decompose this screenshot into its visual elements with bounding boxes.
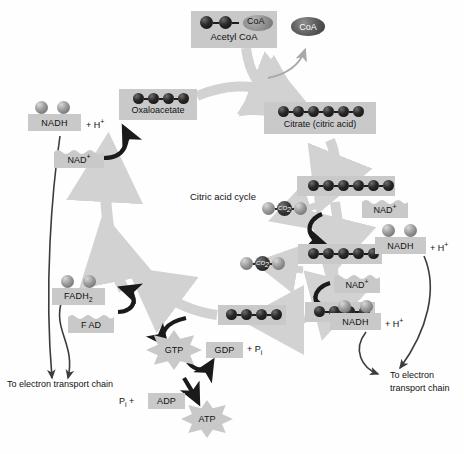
electron-sphere xyxy=(404,224,417,237)
etc-left-annotation: To electron transport chain xyxy=(7,379,113,390)
electron-sphere xyxy=(338,300,351,313)
carbon-sphere xyxy=(323,106,334,117)
nad-right-upper-label: NAD+ xyxy=(362,203,408,215)
nadh-right-upper-proton: + H+ xyxy=(430,239,448,254)
nadh-right-lower-box: NADH xyxy=(330,313,381,330)
carbon-sphere xyxy=(353,180,364,191)
carbon-sphere xyxy=(308,180,319,191)
carbon-sphere xyxy=(353,106,364,117)
carbon-sphere xyxy=(308,106,319,117)
pi-adp-text: Pi + xyxy=(119,396,134,410)
carbon-sphere xyxy=(226,309,237,320)
cycle-center-label: Citric acid cycle xyxy=(190,191,256,202)
six-carbon-chain xyxy=(308,180,394,191)
carbon-sphere xyxy=(241,309,252,320)
five-carbon-chain xyxy=(308,248,379,259)
carbon-sphere xyxy=(314,306,325,317)
coa-released-node: CoA xyxy=(291,17,325,36)
nadh-right-upper-label: NADH xyxy=(387,241,413,251)
nadh-right-upper-electron-pair xyxy=(382,224,417,237)
carbon-sphere xyxy=(323,180,334,191)
oxaloacetate-label: Oxaloacetate xyxy=(119,105,197,115)
adp-box: ADP xyxy=(148,393,185,409)
carbon-sphere xyxy=(353,248,364,259)
nad-top-box: NAD+ xyxy=(54,148,104,168)
co2-lower-label: CO2 xyxy=(240,259,285,267)
fadh2-label: FADH2 xyxy=(64,291,93,303)
five-carbon-node xyxy=(298,244,382,264)
nad-right-lower-box: NAD+ xyxy=(334,273,380,293)
carbon-sphere xyxy=(368,180,379,191)
electron-sphere xyxy=(360,300,373,313)
acetyl-coa-label: Acetyl CoA xyxy=(191,31,277,42)
carbon-sphere xyxy=(200,16,213,29)
carbon-sphere xyxy=(163,93,174,104)
coa-released-label: CoA xyxy=(299,22,317,32)
gtp-node: GTP xyxy=(146,330,202,370)
citrate-label: Citrate (citric acid) xyxy=(264,119,376,129)
nadh-top-electron-pair xyxy=(35,101,70,114)
carbon-sphere xyxy=(308,248,319,259)
gdp-label: GDP xyxy=(214,345,234,355)
carbon-sphere xyxy=(219,16,232,29)
carbon-sphere xyxy=(323,248,334,259)
nadh-right-lower-electron-pair xyxy=(338,300,373,313)
four-carbon-bottom-chain xyxy=(226,309,282,320)
carbon-sphere xyxy=(148,93,159,104)
nadh-top-box: NADH xyxy=(28,114,81,131)
carbon-sphere xyxy=(293,106,304,117)
carbon-sphere xyxy=(383,180,394,191)
oxaloacetate-node: Oxaloacetate xyxy=(119,89,197,120)
nad-right-lower-label: NAD+ xyxy=(334,278,380,290)
etc-right-annotation-line1: To electron xyxy=(390,370,434,381)
carbon-sphere xyxy=(338,248,349,259)
gtp-label: GTP xyxy=(165,345,184,355)
gdp-phosphate-text: + Pi xyxy=(247,344,262,358)
carbon-sphere xyxy=(178,93,189,104)
acetyl-coa-carbon-chain xyxy=(200,16,239,29)
acetyl-coa-node: CoA Acetyl CoA xyxy=(191,11,277,48)
carbon-sphere xyxy=(338,180,349,191)
six-carbon-node xyxy=(297,176,395,196)
fadh2-box: FADH2 xyxy=(52,288,105,305)
carbon-sphere xyxy=(256,309,267,320)
electron-sphere xyxy=(35,101,48,114)
fad-label: F AD xyxy=(68,320,114,330)
diagram-canvas: CoA Acetyl CoA CoA Oxaloacetate xyxy=(0,0,464,454)
carbon-sphere xyxy=(133,93,144,104)
co2-upper-node: CO2 xyxy=(262,201,307,216)
carbon-sphere xyxy=(338,106,349,117)
electron-sphere xyxy=(57,101,70,114)
nad-right-upper-box: NAD+ xyxy=(362,198,408,218)
four-carbon-bottom-node xyxy=(218,305,286,325)
electron-sphere xyxy=(61,275,74,288)
co2-lower-node: CO2 xyxy=(240,256,285,271)
carbon-sphere xyxy=(271,309,282,320)
electron-sphere xyxy=(83,275,96,288)
atp-node: ATP xyxy=(181,400,233,438)
carbon-sphere xyxy=(278,106,289,117)
fadh2-electron-pair xyxy=(61,275,96,288)
nadh-right-lower-proton: + H+ xyxy=(385,315,403,330)
oxaloacetate-carbon-chain xyxy=(133,93,189,104)
adp-label: ADP xyxy=(157,396,176,406)
nadh-top-label: NADH xyxy=(41,118,67,128)
etc-right-annotation-line2: transport chain xyxy=(390,383,450,394)
gdp-box: GDP xyxy=(206,342,243,358)
co2-upper-label: CO2 xyxy=(262,204,307,212)
nadh-top-proton: + H+ xyxy=(86,116,104,131)
electron-sphere xyxy=(382,224,395,237)
nadh-right-upper-box: NADH xyxy=(375,237,426,254)
acetyl-coa-coa-tag: CoA xyxy=(247,16,265,26)
nad-top-label: NAD+ xyxy=(54,153,104,165)
atp-label: ATP xyxy=(199,414,216,424)
citrate-node: Citrate (citric acid) xyxy=(264,102,376,134)
nadh-right-lower-label: NADH xyxy=(342,317,368,327)
citrate-carbon-chain xyxy=(278,106,364,117)
fad-box: F AD xyxy=(68,313,114,333)
